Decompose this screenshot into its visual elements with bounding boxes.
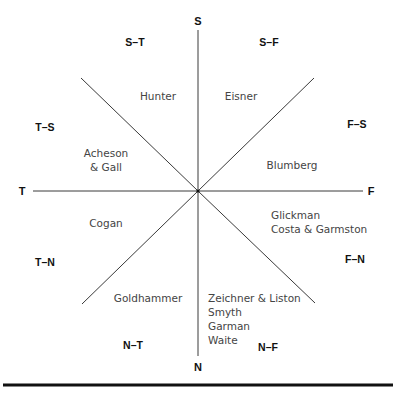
author-garman: Garman <box>208 320 250 332</box>
combo-label-f-s: F–S <box>347 118 366 130</box>
author-blumberg: Blumberg <box>267 159 318 171</box>
author-hunter: Hunter <box>140 90 177 102</box>
author-acheson-gall-line-2: & Gall <box>90 161 122 173</box>
pole-label-t: T <box>19 185 26 197</box>
author-zeichner-liston: Zeichner & Liston <box>208 292 301 304</box>
author-acheson-gall-line-1: Acheson <box>84 147 128 159</box>
pole-label-n: N <box>194 361 202 373</box>
pole-label-s: S <box>194 15 201 27</box>
author-glickman: Glickman <box>271 209 320 221</box>
combo-label-n-t: N–T <box>123 339 143 351</box>
combo-label-t-n: T–N <box>35 256 55 268</box>
center-point <box>196 189 199 192</box>
author-goldhammer: Goldhammer <box>114 292 183 304</box>
combo-label-f-n: F–N <box>345 253 365 265</box>
supervision-typology-diagram: S N T F S–T S–F T–S F–S T–N F–N N–T N–F … <box>0 0 397 394</box>
author-eisner: Eisner <box>225 90 258 102</box>
pole-label-f: F <box>368 185 375 197</box>
combo-label-n-f: N–F <box>258 341 278 353</box>
combo-label-s-f: S–F <box>259 36 279 48</box>
diagonal-lower-right <box>198 191 315 303</box>
author-costa-garmston: Costa & Garmston <box>271 223 367 235</box>
author-smyth: Smyth <box>208 306 242 318</box>
combo-label-t-s: T–S <box>35 121 54 133</box>
combo-label-s-t: S–T <box>125 36 145 48</box>
diagonal-lower-left <box>82 191 198 304</box>
author-waite: Waite <box>208 334 238 346</box>
author-cogan: Cogan <box>89 217 123 229</box>
